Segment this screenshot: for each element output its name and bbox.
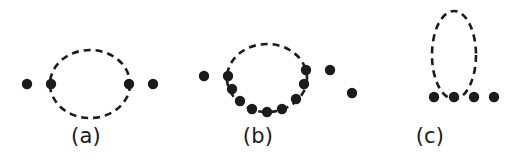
dot-a-left-inner: [46, 79, 56, 89]
dot-b-arc-3: [247, 104, 257, 114]
dot-a-left-outer: [22, 79, 32, 89]
diagram-c-canvas: [344, 0, 516, 128]
dot-c-row-1: [429, 92, 439, 102]
diagram-panel-a: (a): [0, 0, 172, 165]
dot-a-right-inner: [124, 79, 134, 89]
dot-b-left-inner: [223, 71, 233, 81]
dot-c-isolated: [347, 88, 357, 98]
panel-label-b: (b): [172, 126, 344, 147]
dot-b-right-outer: [325, 65, 335, 75]
loop-a-dashed-circle: [50, 50, 130, 118]
dot-b-right-inner: [301, 65, 311, 75]
diagram-a-canvas: [0, 0, 172, 128]
panel-label-a: (a): [0, 126, 172, 147]
diagram-panel-c: (c): [344, 0, 516, 165]
dot-b-arc-5: [277, 104, 287, 114]
diagram-b-canvas: [172, 0, 344, 128]
dot-a-right-outer: [148, 79, 158, 89]
dot-c-row-2: [449, 92, 459, 102]
dot-c-row-4: [489, 92, 499, 102]
dot-b-arc-2: [235, 96, 245, 106]
diagram-panel-b: (b): [172, 0, 344, 165]
feynman-diagram-figure: (a) (b) (c): [0, 0, 516, 165]
dot-b-arc-4: [262, 107, 272, 117]
loop-c-dashed-ellipse: [432, 11, 476, 99]
dot-b-arc-1: [227, 84, 237, 94]
dot-c-row-3: [469, 92, 479, 102]
dot-b-arc-6: [291, 94, 301, 104]
dot-b-left-outer: [199, 71, 209, 81]
panel-label-c: (c): [344, 126, 516, 147]
dot-b-arc-7: [299, 79, 309, 89]
